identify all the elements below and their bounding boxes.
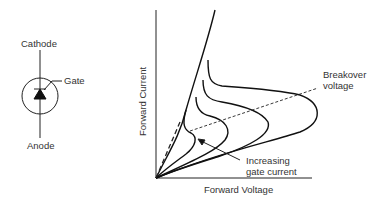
breakover-label-line2: voltage	[323, 80, 354, 91]
gate-current-label-line1: Increasing	[246, 155, 290, 166]
curve-gate-3	[156, 97, 228, 178]
characteristic-curves	[156, 10, 317, 178]
gate-current-label-line2: gate current	[246, 166, 297, 177]
curve-gate-1	[156, 60, 317, 178]
x-axis-label: Forward Voltage	[204, 184, 273, 195]
arrowhead-icon	[198, 139, 205, 145]
cathode-label: Cathode	[21, 38, 57, 49]
axes	[156, 10, 312, 178]
gate-lead	[44, 81, 52, 90]
y-axis-label: Forward Current	[137, 66, 148, 136]
thyristor-diagram: Cathode Gate Anode Forward Current Forwa…	[0, 0, 384, 206]
gate-label: Gate	[64, 75, 85, 86]
anode-label: Anode	[27, 140, 54, 151]
thyristor-symbol	[22, 50, 62, 138]
breakover-label-line1: Breakover	[323, 69, 366, 80]
diode-triangle-icon	[34, 89, 46, 99]
